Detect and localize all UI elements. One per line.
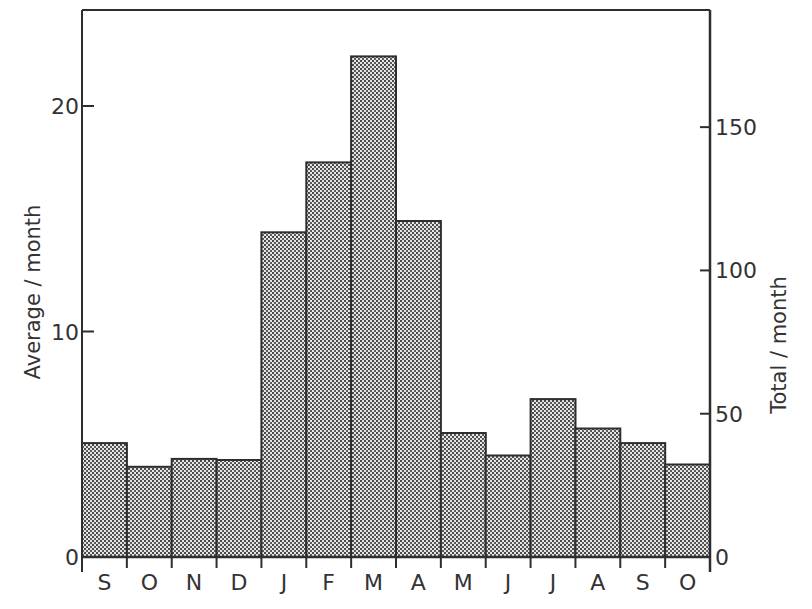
bar (620, 443, 665, 557)
histogram-chart: SONDJFMAMJJASO01020050100150 Average / m… (0, 0, 812, 609)
bar (575, 429, 620, 558)
month-label: A (590, 570, 605, 595)
month-label: O (679, 570, 696, 595)
right-tick-label: 0 (715, 545, 729, 570)
right-tick-label: 50 (715, 402, 743, 427)
bar (441, 433, 486, 557)
right-axis-title: Total / month (767, 276, 791, 415)
bar (396, 221, 441, 557)
bar (127, 467, 172, 557)
bar (261, 232, 306, 557)
bar (306, 162, 351, 557)
bar (531, 399, 576, 557)
bars-group (82, 56, 710, 557)
bar (486, 456, 531, 558)
month-label: S (636, 570, 650, 595)
month-label: O (141, 570, 158, 595)
left-tick-label: 10 (51, 320, 79, 345)
bar (665, 465, 710, 558)
bar (82, 443, 127, 557)
month-label: J (279, 570, 288, 595)
left-tick-label: 20 (51, 94, 79, 119)
right-tick-label: 100 (715, 258, 757, 283)
right-tick-label: 150 (715, 115, 757, 140)
month-label: F (322, 570, 335, 595)
month-label: S (97, 570, 111, 595)
month-label: M (364, 570, 383, 595)
bar (172, 459, 217, 557)
bar (217, 460, 262, 557)
month-label: M (454, 570, 473, 595)
month-label: J (548, 570, 557, 595)
left-tick-label: 0 (65, 545, 79, 570)
bar (351, 56, 396, 557)
month-label: J (503, 570, 512, 595)
month-label: N (186, 570, 202, 595)
month-label: D (231, 570, 248, 595)
left-axis-title: Average / month (21, 205, 45, 380)
month-label: A (411, 570, 426, 595)
